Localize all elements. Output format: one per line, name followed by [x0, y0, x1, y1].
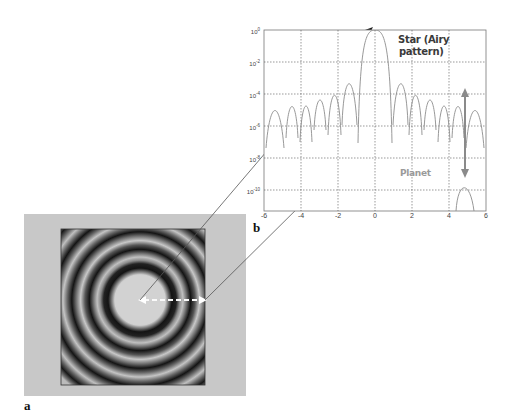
- planet-annotation: Planet: [400, 168, 431, 178]
- y-tick-0: 100: [238, 27, 260, 35]
- figure: 100 10-2 10-4 10-6 10-8 10-10 -6 -4 -2 0…: [0, 0, 511, 418]
- x-tick-3: 0: [367, 212, 383, 219]
- panel-a-image: [24, 214, 246, 396]
- x-tick-6: 6: [478, 212, 494, 219]
- x-tick-5: 4: [441, 212, 457, 219]
- x-tick-1: -4: [293, 212, 309, 219]
- panel-label-b: b: [253, 220, 260, 236]
- y-tick-1: 10-2: [238, 59, 260, 67]
- y-tick-3: 10-6: [238, 123, 260, 131]
- x-tick-4: 2: [404, 212, 420, 219]
- x-tick-2: -2: [330, 212, 346, 219]
- star-annotation-line1: Star (Airy: [398, 34, 449, 46]
- star-annotation: Star (Airy pattern): [398, 34, 449, 58]
- y-tick-2: 10-4: [238, 91, 260, 99]
- y-tick-5: 10-10: [238, 187, 260, 195]
- panel-label-a: a: [24, 398, 31, 414]
- star-annotation-line2: pattern): [398, 46, 449, 58]
- x-tick-0: -6: [256, 212, 272, 219]
- y-tick-4: 10-8: [238, 155, 260, 163]
- panel-b-plot: [264, 30, 486, 211]
